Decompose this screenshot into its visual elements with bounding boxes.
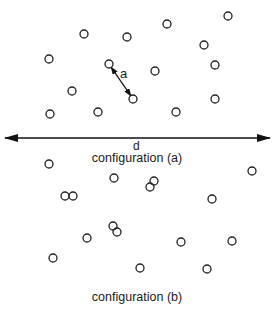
particle-circle: [110, 174, 118, 182]
particle-circle: [46, 110, 54, 118]
particle-circle: [80, 30, 88, 38]
particle-circle: [211, 95, 219, 103]
particle-circle: [163, 20, 171, 28]
caption-configuration-b: configuration (b): [0, 290, 274, 304]
particle-circle: [49, 254, 57, 262]
spacing-label-a: a: [120, 66, 127, 81]
particle-circle: [200, 41, 208, 49]
configuration-a-particles: [45, 12, 232, 118]
particle-circle: [151, 67, 159, 75]
particle-circle: [45, 55, 53, 63]
particle-circle: [94, 108, 102, 116]
particle-circle: [83, 234, 91, 242]
particle-circle: [105, 60, 113, 68]
particle-circle: [69, 192, 77, 200]
caption-configuration-a: configuration (a): [0, 151, 274, 165]
particle-circle: [177, 238, 185, 246]
particle-circle: [146, 183, 154, 191]
particle-circle: [224, 12, 232, 20]
configuration-b-particles: [45, 160, 256, 273]
particle-circle: [208, 195, 216, 203]
particle-circle: [136, 264, 144, 272]
particle-circle: [172, 108, 180, 116]
particle-circle: [61, 192, 69, 200]
particle-circle: [203, 265, 211, 273]
particle-circle: [113, 228, 121, 236]
particle-circle: [123, 33, 131, 41]
particle-circle: [129, 95, 137, 103]
particle-circle: [68, 87, 76, 95]
particle-circle: [228, 237, 236, 245]
particle-circle: [248, 167, 256, 175]
particle-circle: [211, 61, 219, 69]
